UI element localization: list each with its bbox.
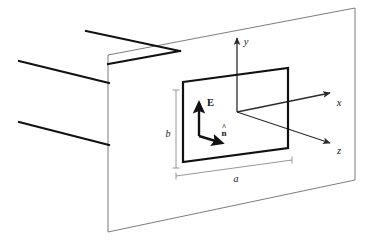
wavefront-ray-bottom: [19, 122, 109, 145]
x-axis-label: x: [336, 97, 342, 108]
z-axis-label: z: [336, 145, 341, 156]
y-axis-label: y: [243, 36, 249, 47]
screen-plane: [108, 8, 355, 232]
dimension-a-label: a: [234, 173, 239, 184]
physics-figure: y x z E n ^ b a: [0, 0, 372, 243]
normal-vector-hat-icon: ^: [222, 123, 227, 132]
wavefront-ray-middle: [19, 61, 109, 83]
dimension-b-label: b: [166, 128, 171, 139]
wavefront-ray-top: [86, 31, 180, 51]
figure-canvas: y x z E n ^ b a: [0, 0, 372, 243]
e-field-label: E: [207, 97, 214, 108]
